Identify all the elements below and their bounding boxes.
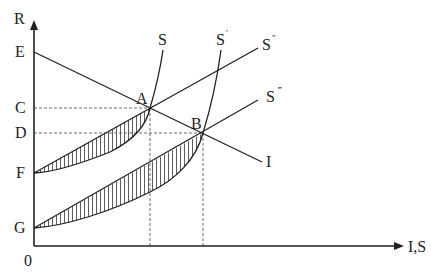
curve-label-I: I — [266, 153, 271, 170]
point-label-D: D — [15, 124, 27, 141]
svg-text:S: S — [216, 31, 225, 48]
svg-text:″: ″ — [272, 33, 276, 43]
saving-line-S-double-prime — [34, 48, 258, 173]
x-axis-label: I,S — [408, 238, 426, 255]
svg-text:′: ′ — [226, 28, 228, 38]
intersection-label-A: A — [136, 90, 148, 107]
svg-text:S: S — [262, 36, 271, 53]
point-label-C: C — [15, 99, 26, 116]
intersection-label-B: B — [191, 115, 202, 132]
point-label-E: E — [15, 43, 25, 60]
curve-label-S-double-prime: S ″ — [262, 33, 276, 53]
x-axis-arrow-icon — [394, 242, 404, 250]
investment-saving-diagram: R I,S 0 E C D F G A B S S ′ S ″ S ‴ I — [0, 0, 431, 275]
svg-text:‴: ‴ — [278, 85, 282, 95]
curve-label-S-triple-prime: S ‴ — [266, 85, 282, 105]
curve-label-S-prime: S ′ — [216, 28, 228, 48]
point-label-G: G — [14, 219, 26, 236]
point-label-F: F — [16, 164, 25, 181]
origin-label: 0 — [24, 252, 32, 269]
y-axis-arrow-icon — [30, 20, 38, 30]
curve-label-S: S — [158, 31, 167, 48]
y-axis-label: R — [14, 10, 25, 27]
investment-line-I — [34, 52, 262, 162]
svg-text:S: S — [266, 88, 275, 105]
